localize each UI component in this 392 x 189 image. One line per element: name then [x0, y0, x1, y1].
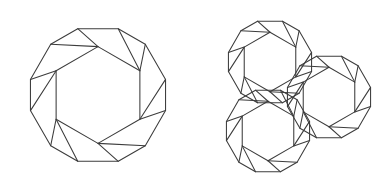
canvas-background	[0, 0, 392, 189]
figure-canvas	[0, 0, 392, 189]
